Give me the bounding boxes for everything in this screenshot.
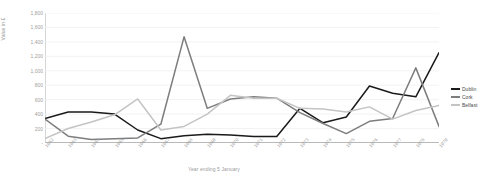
x-axis-title: Year ending 5 January xyxy=(188,166,240,172)
y-axis-tick-labels: 1,8001,6001,4001,2001,000800600400200- xyxy=(16,0,43,180)
plot-area xyxy=(45,13,439,143)
legend-color-swatch xyxy=(451,96,460,98)
y-axis-tick-label: 1,400 xyxy=(16,39,43,45)
y-axis-tick-label: - xyxy=(16,140,43,146)
series-line-belfast xyxy=(45,95,439,138)
y-axis-title: Value in £ xyxy=(0,0,12,64)
gridlines xyxy=(45,13,439,143)
legend-item-belfast[interactable]: Belfast xyxy=(451,101,503,109)
y-axis-tick-label: 1,800 xyxy=(16,10,43,16)
legend-item-dublin[interactable]: Dublin xyxy=(451,85,503,93)
y-axis-tick-label: 200 xyxy=(16,126,43,132)
x-axis-tick-label: 1979 xyxy=(438,137,449,148)
legend-color-swatch xyxy=(451,88,460,90)
y-axis-tick-label: 1,200 xyxy=(16,53,43,59)
legend-item-label: Cork xyxy=(462,94,473,100)
y-axis-tick-label: 800 xyxy=(16,82,43,88)
legend-color-swatch xyxy=(451,104,460,106)
series-line-dublin xyxy=(45,53,439,139)
series-line-cork xyxy=(45,37,439,140)
y-axis-tick-label: 600 xyxy=(16,97,43,103)
legend-item-cork[interactable]: Cork xyxy=(451,93,503,101)
y-axis-tick-label: 1,600 xyxy=(16,24,43,30)
y-axis-tick-label: 1,000 xyxy=(16,68,43,74)
legend-item-label: Belfast xyxy=(462,102,477,108)
x-axis-tick-labels: 1962196319641965196619671968196919701971… xyxy=(45,143,439,165)
series-lines xyxy=(45,37,439,140)
y-axis-tick-label: 400 xyxy=(16,111,43,117)
chart-legend: DublinCorkBelfast xyxy=(451,85,503,109)
line-chart: Value in £ 1,8001,6001,4001,2001,0008006… xyxy=(0,0,504,180)
legend-item-label: Dublin xyxy=(462,86,476,92)
